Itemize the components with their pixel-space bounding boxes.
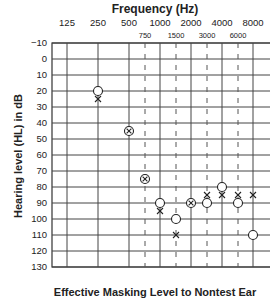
circle-marker-icon xyxy=(218,183,227,192)
circle-marker-icon xyxy=(94,87,103,96)
circle-marker-icon xyxy=(249,231,258,240)
circle-marker-icon xyxy=(156,199,165,208)
audiogram-plot xyxy=(0,0,270,306)
circle-marker-icon xyxy=(203,199,212,208)
circle-marker-icon xyxy=(172,215,181,224)
circle-marker-icon xyxy=(234,199,243,208)
